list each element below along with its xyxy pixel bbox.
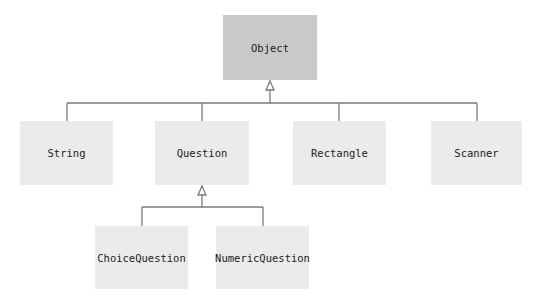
class-label: Scanner bbox=[454, 147, 498, 159]
class-label: ChoiceQuestion bbox=[97, 252, 186, 264]
inheritance-arrow-icon bbox=[198, 186, 206, 195]
class-node-rectangle: Rectangle bbox=[293, 121, 386, 185]
class-label: NumericQuestion bbox=[215, 252, 310, 264]
class-node-scanner: Scanner bbox=[431, 121, 522, 185]
class-node-choicequestion: ChoiceQuestion bbox=[95, 226, 188, 289]
class-label: Rectangle bbox=[311, 147, 368, 159]
class-node-numericquestion: NumericQuestion bbox=[216, 226, 309, 289]
class-label: Question bbox=[177, 147, 228, 159]
class-node-string: String bbox=[20, 121, 113, 185]
class-node-object: Object bbox=[223, 15, 317, 80]
class-label: String bbox=[48, 147, 86, 159]
inheritance-arrow-icon bbox=[266, 81, 274, 90]
class-label: Object bbox=[251, 42, 289, 54]
class-node-question: Question bbox=[155, 121, 249, 185]
